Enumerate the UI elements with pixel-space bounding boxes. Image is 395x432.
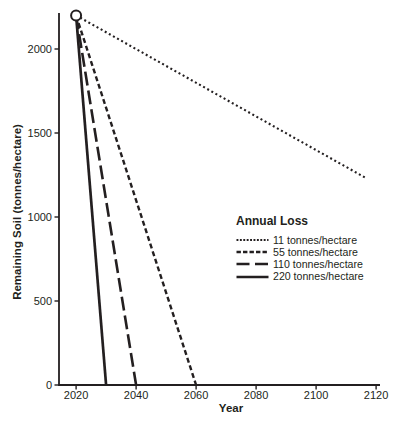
x-axis-tick-label: 2120 bbox=[364, 389, 388, 401]
legend-line-sample-long-dash bbox=[236, 260, 269, 268]
x-axis-tick-label: 2060 bbox=[184, 389, 208, 401]
legend-line-sample-short-dash bbox=[236, 248, 269, 256]
x-axis-tick-label: 2100 bbox=[304, 389, 328, 401]
y-axis-tick-label: 1500 bbox=[28, 127, 52, 139]
legend-item-label: 55 tonnes/hectare bbox=[273, 247, 358, 258]
legend-line-sample-solid bbox=[236, 273, 269, 281]
legend-item-label: 220 tonnes/hectare bbox=[273, 271, 364, 282]
legend: Annual Loss 11 tonnes/hectare55 tonnes/h… bbox=[236, 214, 364, 283]
y-axis-title: Remaining Soil (tonnes/hectare) bbox=[11, 124, 23, 300]
legend-item-label: 110 tonnes/hectare bbox=[273, 259, 363, 270]
series-line-solid bbox=[76, 15, 106, 385]
legend-items: 11 tonnes/hectare55 tonnes/hectare110 to… bbox=[236, 234, 364, 283]
series-line-dotted bbox=[76, 15, 367, 178]
legend-item: 220 tonnes/hectare bbox=[236, 271, 364, 283]
legend-line-sample-dotted bbox=[236, 236, 269, 244]
axis-lines bbox=[59, 13, 380, 385]
start-marker bbox=[71, 10, 81, 20]
y-axis-tick-label: 1000 bbox=[28, 211, 52, 223]
soil-erosion-figure: 2020204020602080210021200500100015002000… bbox=[0, 0, 395, 432]
x-axis-tick-label: 2080 bbox=[244, 389, 268, 401]
series-line-short-dash bbox=[76, 15, 196, 385]
x-axis-tick-label: 2040 bbox=[124, 389, 148, 401]
y-axis-tick-label: 0 bbox=[46, 379, 52, 391]
y-axis-tick-label: 500 bbox=[34, 295, 52, 307]
series-layer bbox=[71, 10, 367, 385]
legend-title: Annual Loss bbox=[236, 214, 364, 228]
legend-item: 55 tonnes/hectare bbox=[236, 246, 364, 258]
y-axis-tick-label: 2000 bbox=[28, 43, 52, 55]
legend-item-label: 11 tonnes/hectare bbox=[273, 235, 357, 246]
x-axis-title: Year bbox=[219, 402, 243, 414]
legend-item: 11 tonnes/hectare bbox=[236, 234, 364, 246]
x-axis-tick-label: 2020 bbox=[64, 389, 88, 401]
legend-item: 110 tonnes/hectare bbox=[236, 258, 364, 270]
series-line-long-dash bbox=[76, 15, 136, 385]
